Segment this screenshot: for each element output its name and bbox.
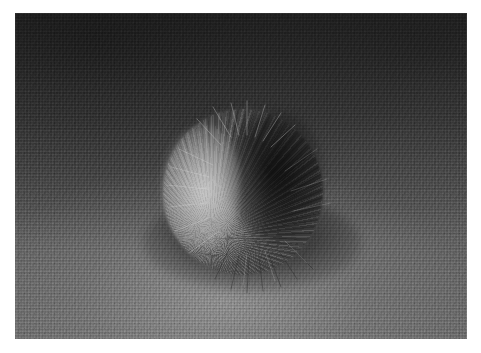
- fur-stray-hairs: [135, 91, 355, 303]
- photograph: [15, 13, 467, 339]
- photo-viewer: Grey fur pom-pom on dark woven fabric: [0, 0, 481, 353]
